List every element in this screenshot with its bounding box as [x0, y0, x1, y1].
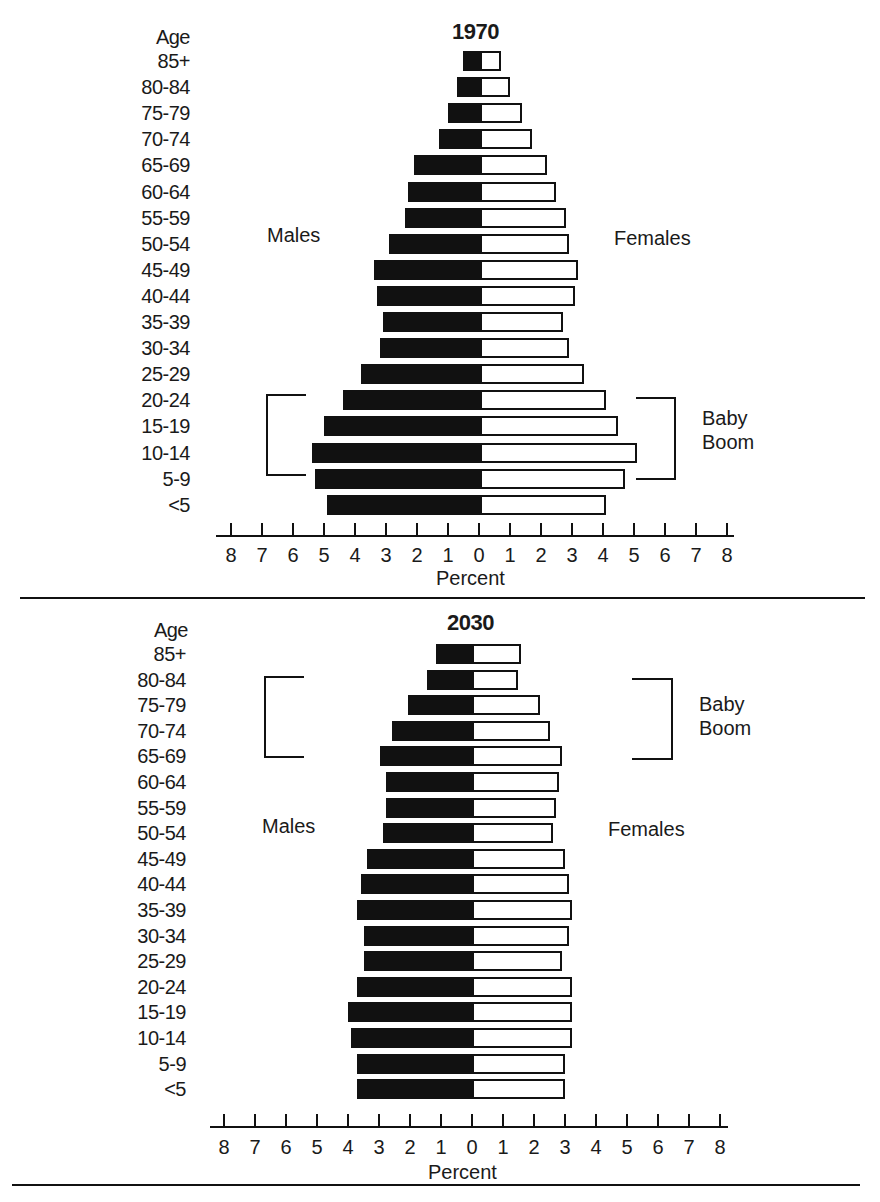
- age-label: 60-64: [66, 772, 186, 792]
- x-axis-label: Percent: [428, 1162, 497, 1182]
- age-label: 50-54: [66, 823, 186, 843]
- x-tick: [626, 1114, 628, 1127]
- male-bar: [364, 926, 474, 946]
- x-tick-label: 8: [214, 1137, 234, 1157]
- female-bar: [474, 823, 553, 843]
- age-label: 65-69: [66, 746, 186, 766]
- x-tick-label: 3: [555, 1137, 575, 1157]
- female-bar: [474, 977, 572, 997]
- x-tick-label: 2: [524, 1137, 544, 1157]
- females-label: Females: [608, 818, 685, 840]
- age-label: 5-9: [66, 1054, 186, 1074]
- x-tick-label: 0: [462, 1137, 482, 1157]
- x-axis-line: [210, 1126, 728, 1128]
- x-tick-label: 2: [400, 1137, 420, 1157]
- male-bar: [392, 721, 474, 741]
- male-bar: [436, 644, 474, 664]
- x-tick-label: 8: [710, 1137, 730, 1157]
- x-tick-label: 4: [338, 1137, 358, 1157]
- age-label: 15-19: [66, 1002, 186, 1022]
- x-tick-label: 7: [679, 1137, 699, 1157]
- male-bar: [383, 823, 474, 843]
- age-axis-header: Age: [68, 620, 188, 640]
- baby-boom-line1: Baby: [699, 692, 751, 716]
- female-bar: [474, 798, 556, 818]
- female-bar: [474, 1002, 572, 1022]
- age-label: 20-24: [66, 977, 186, 997]
- male-bar: [357, 977, 474, 997]
- males-label: Males: [262, 815, 315, 837]
- x-tick: [657, 1114, 659, 1127]
- female-bar: [474, 874, 569, 894]
- x-tick-label: 7: [245, 1137, 265, 1157]
- male-bar: [386, 798, 474, 818]
- age-label: 55-59: [66, 798, 186, 818]
- female-bar: [474, 670, 518, 690]
- x-tick-label: 5: [307, 1137, 327, 1157]
- age-label: <5: [66, 1079, 186, 1099]
- male-bar: [364, 951, 474, 971]
- x-tick: [285, 1114, 287, 1127]
- x-tick: [471, 1114, 473, 1127]
- x-tick-label: 6: [276, 1137, 296, 1157]
- female-bar: [474, 1079, 565, 1099]
- x-tick-label: 1: [431, 1137, 451, 1157]
- female-bar: [474, 746, 562, 766]
- age-label: 10-14: [66, 1028, 186, 1048]
- x-tick: [688, 1114, 690, 1127]
- chart-title: 2030: [447, 610, 494, 636]
- female-bar: [474, 1028, 572, 1048]
- female-bar: [474, 644, 521, 664]
- age-label: 30-34: [66, 926, 186, 946]
- pyramid-2030: 2030 Age 85+80-8475-7970-7465-6960-6455-…: [0, 0, 880, 1202]
- x-tick: [316, 1114, 318, 1127]
- age-label: 45-49: [66, 849, 186, 869]
- female-bar: [474, 951, 562, 971]
- baby-boom-line2: Boom: [699, 716, 751, 740]
- baby-boom-label: Baby Boom: [699, 692, 751, 740]
- male-bar: [357, 1079, 474, 1099]
- age-label: 80-84: [66, 670, 186, 690]
- x-tick: [223, 1114, 225, 1127]
- female-bar: [474, 695, 540, 715]
- age-label: 35-39: [66, 900, 186, 920]
- x-tick-label: 4: [586, 1137, 606, 1157]
- x-tick: [440, 1114, 442, 1127]
- female-bar: [474, 772, 559, 792]
- x-tick: [254, 1114, 256, 1127]
- x-tick: [533, 1114, 535, 1127]
- x-tick-label: 1: [493, 1137, 513, 1157]
- male-bar: [408, 695, 474, 715]
- male-bar: [380, 746, 475, 766]
- male-bar: [367, 849, 474, 869]
- age-label: 75-79: [66, 695, 186, 715]
- male-bar: [386, 772, 474, 792]
- bottom-rule: [12, 1184, 860, 1186]
- x-tick: [347, 1114, 349, 1127]
- x-tick: [502, 1114, 504, 1127]
- male-bar: [348, 1002, 474, 1022]
- age-label: 70-74: [66, 721, 186, 741]
- x-tick: [595, 1114, 597, 1127]
- female-bar: [474, 926, 569, 946]
- x-tick-label: 5: [617, 1137, 637, 1157]
- male-bar: [361, 874, 474, 894]
- female-bar: [474, 721, 550, 741]
- baby-boom-bracket-right: [632, 678, 673, 760]
- baby-boom-bracket-left: [264, 676, 304, 758]
- male-bar: [427, 670, 474, 690]
- male-bar: [351, 1028, 474, 1048]
- x-tick: [378, 1114, 380, 1127]
- male-bar: [357, 1054, 474, 1074]
- female-bar: [474, 849, 565, 869]
- x-tick: [719, 1114, 721, 1127]
- x-tick-label: 6: [648, 1137, 668, 1157]
- age-label: 85+: [66, 644, 186, 664]
- female-bar: [474, 1054, 565, 1074]
- x-tick: [564, 1114, 566, 1127]
- male-bar: [357, 900, 474, 920]
- female-bar: [474, 900, 572, 920]
- x-tick: [409, 1114, 411, 1127]
- age-label: 40-44: [66, 874, 186, 894]
- age-label: 25-29: [66, 951, 186, 971]
